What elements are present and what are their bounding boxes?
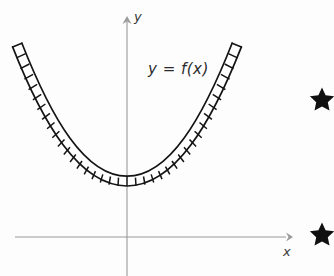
x-axis xyxy=(15,233,293,242)
x-axis-label: x xyxy=(283,245,291,258)
function-equation-label: y = f(x) xyxy=(148,60,209,78)
y-axis-label: y xyxy=(134,10,142,23)
star-lower-icon xyxy=(310,223,334,246)
graph-canvas xyxy=(0,0,334,276)
math-graph-figure: y x y = f(x) xyxy=(0,0,334,276)
star-upper-icon xyxy=(310,88,334,111)
